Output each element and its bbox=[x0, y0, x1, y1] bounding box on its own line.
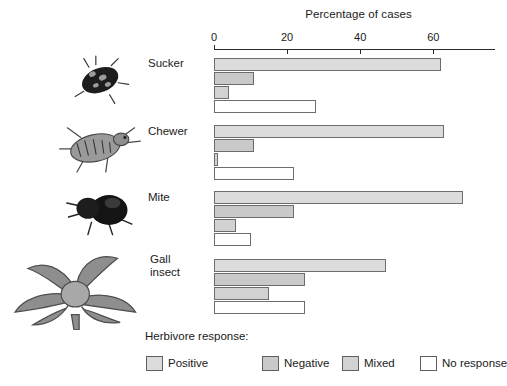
bar-negative bbox=[214, 139, 254, 152]
x-axis-tick-label: 0 bbox=[211, 31, 217, 43]
bar-no-response bbox=[214, 167, 294, 180]
bar-positive bbox=[214, 259, 386, 272]
gall-insect-plant-illustration bbox=[8, 248, 140, 330]
x-axis-tick-label: 40 bbox=[354, 31, 366, 43]
bar-negative bbox=[214, 205, 294, 218]
bar-no-response bbox=[214, 233, 251, 246]
bar-row bbox=[214, 86, 503, 99]
x-axis-tick-label: 60 bbox=[427, 31, 439, 43]
chewer-beetle-illustration bbox=[52, 114, 148, 180]
bar-row bbox=[214, 219, 503, 232]
chart-legend: Herbivore response: PositiveNegativeMixe… bbox=[0, 330, 503, 386]
legend-label: Positive bbox=[168, 357, 208, 369]
bar-row bbox=[214, 301, 503, 314]
bar-row bbox=[214, 273, 503, 286]
legend-label: Mixed bbox=[364, 357, 395, 369]
bar-row bbox=[214, 287, 503, 300]
category-label-gall-insect: Gall insect bbox=[150, 253, 180, 279]
sucker-insect-illustration bbox=[58, 50, 144, 112]
bar-row bbox=[214, 191, 503, 204]
x-axis: 0204060 bbox=[214, 31, 503, 53]
mite-illustration bbox=[58, 178, 146, 242]
bar-mixed bbox=[214, 153, 218, 166]
sucker-insect-illustration bbox=[58, 50, 144, 112]
category-label-mite: Mite bbox=[148, 191, 170, 204]
bar-row bbox=[214, 100, 503, 113]
category-label-chewer: Chewer bbox=[148, 125, 188, 138]
bar-mixed bbox=[214, 219, 236, 232]
bar-positive bbox=[214, 191, 463, 204]
legend-swatch bbox=[146, 356, 163, 371]
bar-row bbox=[214, 167, 503, 180]
bar-mixed bbox=[214, 287, 269, 300]
gall-insect-plant-illustration bbox=[8, 248, 140, 330]
bar-no-response bbox=[214, 100, 316, 113]
legend-swatch bbox=[262, 356, 279, 371]
x-axis-tick-label: 20 bbox=[281, 31, 293, 43]
chewer-beetle-illustration bbox=[52, 114, 148, 180]
legend-label: No response bbox=[442, 357, 507, 369]
bar-row bbox=[214, 259, 503, 272]
mite-illustration bbox=[58, 178, 146, 242]
legend-swatch bbox=[342, 356, 359, 371]
bar-row bbox=[214, 58, 503, 71]
x-axis-origin-cap bbox=[214, 45, 215, 50]
bar-negative bbox=[214, 72, 254, 85]
bar-row bbox=[214, 139, 503, 152]
bar-no-response bbox=[214, 301, 305, 314]
bar-positive bbox=[214, 125, 444, 138]
legend-label: Negative bbox=[284, 357, 329, 369]
bar-positive bbox=[214, 58, 441, 71]
x-axis-title: Percentage of cases bbox=[214, 8, 503, 20]
bar-negative bbox=[214, 273, 305, 286]
legend-title: Herbivore response: bbox=[145, 330, 249, 342]
bar-mixed bbox=[214, 86, 229, 99]
bar-row bbox=[214, 72, 503, 85]
bar-row bbox=[214, 153, 503, 166]
bar-row bbox=[214, 233, 503, 246]
bar-row bbox=[214, 125, 503, 138]
bar-row bbox=[214, 205, 503, 218]
category-label-sucker: Sucker bbox=[148, 57, 184, 70]
legend-swatch bbox=[420, 356, 437, 371]
x-axis-line bbox=[214, 49, 495, 50]
